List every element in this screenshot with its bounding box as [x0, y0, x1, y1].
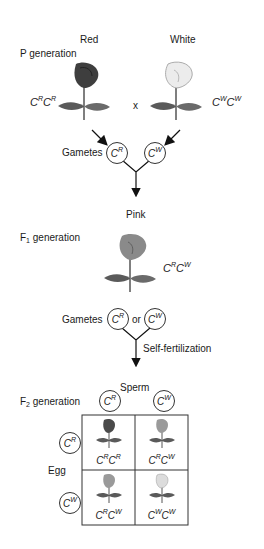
- egg-circle-r: CR: [59, 432, 81, 454]
- punnett-cell: CRCR: [82, 415, 135, 470]
- sperm-circle-r: CR: [99, 390, 121, 412]
- gamete-circle-r: CR: [106, 142, 128, 164]
- arrow-to-gamete-w: [166, 130, 180, 144]
- punnett-cell: CRCW: [82, 470, 135, 525]
- punnett-cell: CRCW: [135, 415, 188, 470]
- f1-genotype: CRCW: [163, 262, 191, 274]
- f1-generation-label: F1 generation: [20, 232, 80, 244]
- f1-gamete-circle-r: CR: [107, 308, 129, 330]
- y-connector-1: [122, 160, 150, 195]
- f2-flower-icon: [96, 473, 122, 503]
- sperm-circle-w: CW: [153, 390, 175, 412]
- f2-flower-icon: [96, 418, 122, 448]
- f1-phenotype-pink: Pink: [126, 209, 145, 220]
- f1-gamete-circle-w: CW: [144, 308, 166, 330]
- or-label: or: [132, 314, 141, 325]
- egg-label: Egg: [48, 465, 66, 476]
- f2-generation-label: F2 generation: [20, 396, 80, 408]
- punnett-genotype: CRCR: [82, 455, 135, 466]
- f1-gametes-label: Gametes: [62, 314, 103, 325]
- f2-flower-icon: [149, 418, 175, 448]
- self-fertilization-label: Self-fertilization: [143, 343, 211, 354]
- gamete-circle-w: CW: [144, 142, 166, 164]
- punnett-genotype: CWCW: [135, 510, 188, 521]
- p-gametes-label: Gametes: [62, 147, 103, 158]
- pink-flower-plant-icon: [104, 232, 164, 292]
- sperm-label: Sperm: [120, 382, 149, 393]
- f2-flower-icon: [149, 473, 175, 503]
- arrow-to-gamete-r: [92, 130, 106, 144]
- punnett-cell: CWCW: [135, 470, 188, 525]
- punnett-genotype: CRCW: [135, 455, 188, 466]
- egg-circle-w: CW: [59, 492, 81, 514]
- punnett-genotype: CRCW: [82, 510, 135, 521]
